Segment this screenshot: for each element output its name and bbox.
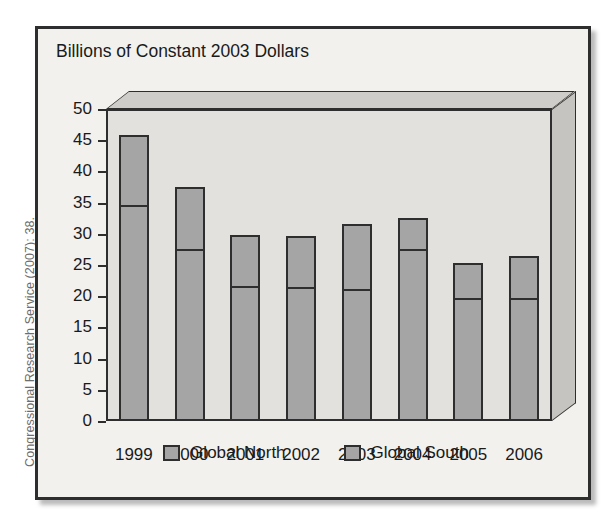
y-axis-label: 15 — [73, 317, 92, 337]
y-axis-tick — [98, 390, 106, 392]
plot-wall-right — [552, 91, 576, 421]
y-axis-tick — [98, 265, 106, 267]
chart-figure-frame: Billions of Constant 2003 Dollars 051015… — [35, 26, 591, 500]
y-axis-label: 50 — [73, 99, 92, 119]
bar-stack[interactable] — [230, 235, 260, 421]
bar-group[interactable] — [509, 109, 539, 421]
bar-stack[interactable] — [509, 256, 539, 421]
y-axis-label: 35 — [73, 193, 92, 213]
legend-item[interactable]: Global North — [163, 443, 285, 463]
bar-group[interactable] — [453, 109, 483, 421]
y-axis-tick — [98, 234, 106, 236]
y-axis-label: 30 — [73, 224, 92, 244]
bars-layer: 19992000200120022003200420052006 — [106, 109, 552, 421]
y-axis-tick — [98, 327, 106, 329]
y-axis-tick — [98, 171, 106, 173]
y-axis-tick — [98, 203, 106, 205]
bar-segment-divider — [230, 286, 260, 288]
bar-segment-divider — [398, 249, 428, 251]
chart-legend: Global NorthGlobal South — [38, 443, 594, 463]
legend-label: Global North — [190, 443, 285, 463]
y-axis-label: 0 — [83, 411, 92, 431]
y-axis-tick — [98, 359, 106, 361]
legend-swatch-south — [344, 445, 361, 461]
bar-stack[interactable] — [286, 236, 316, 421]
bar-segment-divider — [342, 289, 372, 291]
bar-stack[interactable] — [175, 187, 205, 421]
plot-area: 05101520253035404550 1999200020012002200… — [106, 91, 576, 421]
y-axis-label: 10 — [73, 349, 92, 369]
y-axis-label: 25 — [73, 255, 92, 275]
bar-segment-divider — [286, 287, 316, 289]
y-axis-label: 5 — [83, 380, 92, 400]
legend-item[interactable]: Global South — [344, 443, 469, 463]
bar-stack[interactable] — [453, 263, 483, 421]
bar-group[interactable] — [119, 109, 149, 421]
bar-stack[interactable] — [398, 218, 428, 421]
legend-swatch-north — [163, 445, 180, 461]
bar-group[interactable] — [286, 109, 316, 421]
y-axis-tick — [98, 109, 106, 111]
y-axis-label: 45 — [73, 130, 92, 150]
source-caption: Congressional Research Service (2007): 3… — [0, 0, 30, 532]
bar-segment-divider — [509, 298, 539, 300]
bar-group[interactable] — [175, 109, 205, 421]
y-axis-tick — [98, 140, 106, 142]
bar-group[interactable] — [342, 109, 372, 421]
plot-wall-top — [106, 91, 575, 109]
legend-label: Global South — [371, 443, 469, 463]
bar-stack[interactable] — [342, 224, 372, 421]
bar-stack[interactable] — [119, 135, 149, 421]
chart-title: Billions of Constant 2003 Dollars — [56, 41, 309, 62]
bar-group[interactable] — [398, 109, 428, 421]
y-axis-label: 40 — [73, 161, 92, 181]
y-axis-label: 20 — [73, 286, 92, 306]
bar-segment-divider — [119, 205, 149, 207]
bar-group[interactable] — [230, 109, 260, 421]
y-axis-tick — [98, 296, 106, 298]
bar-segment-divider — [453, 298, 483, 300]
y-axis: 05101520253035404550 — [98, 109, 106, 421]
bar-segment-divider — [175, 249, 205, 251]
y-axis-tick — [98, 421, 106, 423]
